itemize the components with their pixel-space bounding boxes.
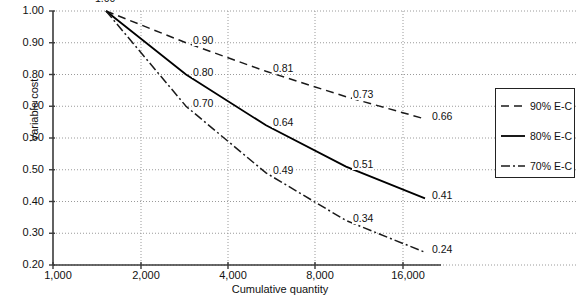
legend-item-label: 90% E-C (530, 100, 572, 112)
chart-figure: Variable cost Cumulative quantity 1.000.… (0, 0, 578, 304)
legend-item-1[interactable]: 80% E-C (500, 129, 572, 143)
y-tick-label: 0.80 (0, 68, 44, 80)
data-point-label: 0.80 (192, 67, 214, 78)
legend: 90% E-C80% E-C70% E-C (495, 88, 575, 178)
data-point-label: 0.24 (431, 244, 453, 255)
y-tick-label: 0.90 (0, 36, 44, 48)
legend-line-swatch-icon (500, 131, 526, 141)
data-point-label: 0.41 (431, 190, 453, 201)
x-tick-label: 1,000 (23, 269, 93, 281)
legend-item-0[interactable]: 90% E-C (500, 99, 572, 113)
data-point-label: 0.70 (192, 98, 214, 109)
data-point-label: 0.66 (431, 111, 453, 122)
axis-lines (53, 11, 441, 265)
x-tick-label: 2,000 (111, 269, 181, 281)
data-point-label: 0.81 (272, 63, 294, 74)
data-point-label: 0.64 (272, 117, 294, 128)
plot-area: Variable cost Cumulative quantity 1.000.… (0, 0, 578, 304)
x-tick-label: 16,000 (373, 269, 443, 281)
y-tick-label: 0.40 (0, 195, 44, 207)
legend-item-2[interactable]: 70% E-C (500, 159, 572, 173)
y-tick-label: 0.30 (0, 226, 44, 238)
y-tick-label: 0.50 (0, 163, 44, 175)
x-axis-title: Cumulative quantity (140, 283, 420, 295)
x-tick-label: 4,000 (198, 269, 268, 281)
data-point-label: 0.73 (352, 89, 374, 100)
chart-canvas (0, 0, 578, 304)
y-tick-label: 0.70 (0, 99, 44, 111)
data-point-label: 0.51 (352, 159, 374, 170)
legend-item-label: 80% E-C (530, 130, 572, 142)
legend-item-label: 70% E-C (530, 160, 572, 172)
series-lines (106, 11, 425, 252)
legend-line-swatch-icon (500, 161, 526, 171)
y-tick-label: 0.60 (0, 131, 44, 143)
data-point-label: 0.90 (192, 35, 214, 46)
x-tick-label: 8,000 (285, 269, 355, 281)
data-point-label: 0.34 (352, 213, 374, 224)
data-point-label: 0.49 (272, 165, 294, 176)
y-tick-label: 1.00 (0, 4, 44, 16)
data-point-label: 1.00 (94, 0, 116, 4)
legend-line-swatch-icon (500, 101, 526, 111)
